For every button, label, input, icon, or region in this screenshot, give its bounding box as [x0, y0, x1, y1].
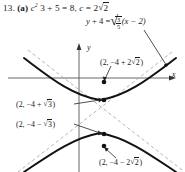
radicand: 2	[134, 157, 139, 167]
point-label-suffix: )	[140, 58, 143, 67]
point-label-prefix: (2, −4 −	[16, 120, 43, 129]
radical-symbol-icon: √	[131, 57, 135, 66]
radical-symbol-icon: √	[43, 119, 47, 128]
radicand: 2	[135, 57, 140, 67]
leader-line-lower-inner	[74, 124, 100, 133]
asymptote-line-positive-slope	[28, 50, 182, 170]
leader-line-asymptote-equation	[144, 30, 165, 63]
leader-endpoint-dot-asymptote	[164, 63, 168, 67]
point-label-lower-outer: (2, −4 − 2√2)	[99, 157, 142, 167]
point-label-suffix: )	[52, 100, 55, 109]
point-label-prefix: (2, −4 − 2	[99, 158, 130, 167]
point-label-lower-inner: (2, −4 − √3)	[16, 119, 55, 129]
point-label-upper-outer: (2, −4 + 2√2)	[100, 57, 143, 67]
point-label-upper-inner: (2, −4 + √3)	[16, 99, 55, 109]
radical-sqrt: √3	[43, 119, 52, 129]
y-axis-arrowhead-icon	[77, 43, 82, 50]
point-label-suffix: )	[52, 120, 55, 129]
radical-sqrt: √2	[131, 57, 140, 67]
point-label-suffix: )	[139, 158, 142, 167]
figure-page: 13. (a) c2 3 + 5 = 8, c = 2√2 y + 4 =√35…	[0, 0, 185, 172]
point-label-prefix: (2, −4 + 2	[100, 58, 131, 67]
radical-symbol-icon: √	[130, 157, 134, 166]
point-label-prefix: (2, −4 +	[16, 100, 43, 109]
radical-sqrt: √3	[43, 99, 52, 109]
radicand: 3	[47, 119, 52, 129]
radical-sqrt: √2	[130, 157, 139, 167]
radicand: 3	[47, 99, 52, 109]
hyperbola-graph	[0, 0, 185, 172]
leader-line-upper-outer	[105, 66, 111, 79]
x-axis-label: x	[172, 70, 176, 79]
y-axis-label: y	[87, 43, 91, 52]
radical-symbol-icon: √	[43, 99, 47, 108]
